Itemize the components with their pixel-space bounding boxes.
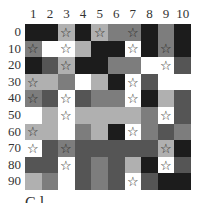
grid-cell[interactable] (75, 140, 92, 157)
grid-cell[interactable] (42, 173, 59, 190)
grid-cell[interactable] (141, 41, 158, 58)
grid-cell[interactable] (91, 124, 108, 141)
grid-cell[interactable] (141, 173, 158, 190)
grid-cell[interactable] (91, 173, 108, 190)
grid-cell[interactable]: ☆ (91, 24, 108, 41)
grid-cell[interactable] (75, 107, 92, 124)
grid-cell[interactable]: ☆ (58, 157, 75, 174)
grid-cell[interactable] (141, 140, 158, 157)
grid-cell[interactable] (141, 24, 158, 41)
grid-cell[interactable] (91, 41, 108, 58)
grid-cell[interactable] (42, 107, 59, 124)
grid-cell[interactable]: ☆ (58, 140, 75, 157)
grid-cell[interactable] (42, 140, 59, 157)
grid-cell[interactable] (141, 157, 158, 174)
grid-cell[interactable] (174, 57, 191, 74)
grid-cell[interactable] (108, 157, 125, 174)
grid-cell[interactable] (174, 107, 191, 124)
grid-cell[interactable] (158, 90, 175, 107)
grid-cell[interactable] (91, 74, 108, 91)
grid-cell[interactable]: ☆ (158, 107, 175, 124)
grid-cell[interactable] (42, 74, 59, 91)
grid-cell[interactable]: ☆ (125, 41, 142, 58)
grid-cell[interactable]: ☆ (25, 140, 42, 157)
grid-cell[interactable] (108, 107, 125, 124)
grid-cell[interactable] (108, 74, 125, 91)
grid-cell[interactable] (42, 90, 59, 107)
grid-cell[interactable] (42, 124, 59, 141)
grid-cell[interactable]: ☆ (58, 41, 75, 58)
grid-cell[interactable] (91, 140, 108, 157)
grid-cell[interactable]: ☆ (25, 90, 42, 107)
grid-cell[interactable] (125, 157, 142, 174)
grid-cell[interactable] (42, 41, 59, 58)
grid-cell[interactable] (174, 140, 191, 157)
grid-cell[interactable] (75, 90, 92, 107)
grid-cell[interactable]: ☆ (125, 173, 142, 190)
grid-cell[interactable] (75, 124, 92, 141)
grid-cell[interactable] (75, 173, 92, 190)
grid-cell[interactable] (141, 107, 158, 124)
grid-cell[interactable] (141, 57, 158, 74)
grid-cell[interactable] (75, 74, 92, 91)
grid-cell[interactable] (75, 24, 92, 41)
grid-cell[interactable] (58, 74, 75, 91)
grid-cell[interactable]: ☆ (58, 57, 75, 74)
grid-cell[interactable] (108, 124, 125, 141)
grid-cell[interactable]: ☆ (58, 24, 75, 41)
grid-cell[interactable] (125, 107, 142, 124)
grid-cell[interactable] (141, 90, 158, 107)
grid-cell[interactable]: ☆ (125, 90, 142, 107)
grid-cell[interactable] (25, 57, 42, 74)
grid-cell[interactable] (75, 57, 92, 74)
grid-cell[interactable] (125, 140, 142, 157)
grid-cell[interactable] (174, 41, 191, 58)
grid-cell[interactable] (158, 173, 175, 190)
grid-cell[interactable] (91, 57, 108, 74)
grid-cell[interactable]: ☆ (158, 41, 175, 58)
grid-cell[interactable] (174, 24, 191, 41)
grid-cell[interactable] (58, 173, 75, 190)
grid-cell[interactable] (91, 107, 108, 124)
grid-cell[interactable] (91, 90, 108, 107)
grid-cell[interactable]: ☆ (125, 74, 142, 91)
grid-cell[interactable] (25, 107, 42, 124)
grid-cell[interactable]: ☆ (125, 124, 142, 141)
grid-cell[interactable] (108, 173, 125, 190)
grid-cell[interactable]: ☆ (25, 74, 42, 91)
grid-cell[interactable] (108, 57, 125, 74)
grid-cell[interactable] (75, 41, 92, 58)
grid-cell[interactable]: ☆ (158, 57, 175, 74)
grid-cell[interactable]: ☆ (25, 124, 42, 141)
grid-cell[interactable] (141, 74, 158, 91)
grid-cell[interactable] (174, 173, 191, 190)
grid-cell[interactable] (108, 90, 125, 107)
grid-cell[interactable] (174, 74, 191, 91)
grid-cell[interactable] (108, 24, 125, 41)
grid-cell[interactable] (108, 140, 125, 157)
grid-cell[interactable] (108, 41, 125, 58)
grid-cell[interactable] (125, 57, 142, 74)
grid-cell[interactable] (174, 157, 191, 174)
grid-cell[interactable] (25, 173, 42, 190)
grid-cell[interactable] (42, 24, 59, 41)
grid-cell[interactable]: ☆ (58, 107, 75, 124)
grid-cell[interactable] (174, 90, 191, 107)
grid-cell[interactable] (25, 157, 42, 174)
grid-cell[interactable] (174, 124, 191, 141)
grid-cell[interactable] (158, 74, 175, 91)
grid-cell[interactable] (91, 157, 108, 174)
grid-cell[interactable] (42, 57, 59, 74)
grid-cell[interactable]: ☆ (25, 41, 42, 58)
grid-cell[interactable]: ☆ (158, 140, 175, 157)
grid-cell[interactable] (42, 157, 59, 174)
grid-cell[interactable] (141, 124, 158, 141)
grid-cell[interactable] (25, 24, 42, 41)
grid-cell[interactable] (158, 24, 175, 41)
grid-cell[interactable] (75, 157, 92, 174)
grid-cell[interactable]: ☆ (158, 157, 175, 174)
grid-cell[interactable] (58, 124, 75, 141)
grid-cell[interactable]: ☆ (58, 90, 75, 107)
grid-cell[interactable] (158, 124, 175, 141)
grid-cell[interactable]: ☆ (125, 24, 142, 41)
